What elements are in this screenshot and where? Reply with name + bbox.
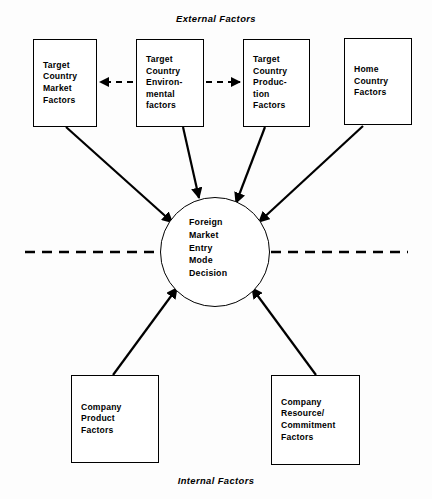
node-home-country-factors[interactable]: Home Country Factors (344, 38, 412, 125)
node-company-product-factors[interactable]: Company Product Factors (71, 375, 159, 463)
center-node-label: Foreign Market Entry Mode Decision (189, 216, 227, 280)
arrow-home-country-factors-to-center (259, 126, 363, 222)
node-target-country-production-factors[interactable]: Target Country Produc- tion Factors (243, 39, 310, 127)
diagram-canvas: External Factors Internal Factors Target… (0, 0, 432, 499)
arrow-market-factors-to-center (66, 127, 173, 223)
arrow-environmental-factors-to-center (183, 127, 199, 198)
node-label-target-country-market-factors: Target Country Market Factors (34, 60, 77, 106)
node-label-target-country-production-factors: Target Country Produc- tion Factors (244, 54, 287, 112)
node-label-company-resource-commitment-factors: Company Resource/ Commitment Factors (272, 397, 336, 443)
arrow-company-resource-factors-to-center (252, 288, 316, 375)
external-factors-title: External Factors (0, 13, 432, 24)
node-label-company-product-factors: Company Product Factors (72, 402, 122, 437)
node-target-country-market-factors[interactable]: Target Country Market Factors (33, 39, 97, 127)
arrow-production-factors-to-center (236, 127, 265, 203)
node-company-resource-commitment-factors[interactable]: Company Resource/ Commitment Factors (271, 375, 360, 465)
node-label-target-country-environmental-factors: Target Country Environ- mental factors (137, 54, 182, 112)
arrow-company-product-factors-to-center (113, 288, 177, 375)
node-target-country-environmental-factors[interactable]: Target Country Environ- mental factors (136, 39, 204, 127)
node-label-home-country-factors: Home Country Factors (345, 64, 388, 99)
internal-factors-title: Internal Factors (0, 475, 432, 486)
